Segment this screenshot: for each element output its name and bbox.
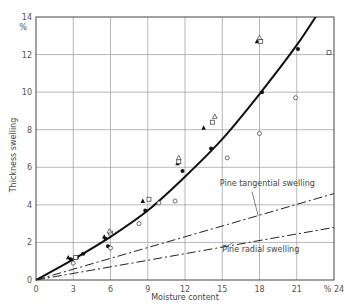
data-point xyxy=(102,234,107,238)
chart: 036912151821% 2402468101214 Pine tangent… xyxy=(0,0,348,307)
data-point xyxy=(210,120,214,124)
data-point xyxy=(257,35,262,39)
data-point xyxy=(74,255,78,259)
y-tick-label: 14 xyxy=(22,13,32,22)
annotation-leader xyxy=(252,192,258,216)
x-tick-label: 18 xyxy=(254,285,264,294)
data-point xyxy=(109,246,113,250)
annotation-label: Pine radial swelling xyxy=(222,245,299,254)
data-point xyxy=(81,252,85,256)
data-point xyxy=(259,39,263,43)
data-point xyxy=(137,222,141,226)
data-point xyxy=(177,160,181,164)
data-points xyxy=(66,35,331,265)
data-point xyxy=(176,155,181,159)
data-point xyxy=(66,255,71,259)
data-point xyxy=(201,125,206,129)
data-point xyxy=(157,201,161,205)
x-axis-label: Moisture content xyxy=(151,293,219,302)
y-tick-label: 10 xyxy=(22,88,32,97)
data-point xyxy=(294,96,298,100)
y-tick-label: 4 xyxy=(27,201,32,210)
data-point xyxy=(181,169,185,173)
x-tick-label: 0 xyxy=(33,285,38,294)
x-tick-label: 21 xyxy=(292,285,302,294)
annotation-label: Pine tangential swelling xyxy=(220,179,315,188)
x-tick-label: 6 xyxy=(108,285,113,294)
data-point xyxy=(213,114,218,118)
data-point xyxy=(260,90,264,94)
y-tick-label: 12 xyxy=(22,51,32,60)
data-point xyxy=(147,197,151,201)
y-tick-label: 0 xyxy=(27,276,32,285)
fit-curve xyxy=(36,8,322,280)
y-tick-label: 2 xyxy=(27,238,32,247)
y-tick-label: 6 xyxy=(27,163,32,172)
data-point xyxy=(140,199,145,203)
x-tick-label: 3 xyxy=(71,285,76,294)
data-point xyxy=(225,156,229,160)
data-point xyxy=(71,261,75,265)
y-axis-label: Thickness swelling xyxy=(9,118,18,194)
data-point xyxy=(296,47,300,51)
data-point xyxy=(258,131,262,135)
data-point xyxy=(173,199,177,203)
data-point xyxy=(143,208,147,212)
data-point xyxy=(327,51,331,55)
y-unit-label: % xyxy=(19,23,27,32)
x-tick-label: % 24 xyxy=(324,285,344,294)
y-tick-label: 8 xyxy=(27,126,32,135)
data-point xyxy=(209,147,213,151)
x-tick-label: 9 xyxy=(145,285,150,294)
